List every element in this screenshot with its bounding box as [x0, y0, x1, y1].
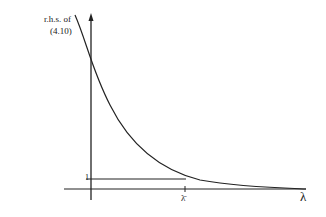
rhs-curve	[75, 15, 306, 189]
y-axis-label-equation: (4.10)	[50, 26, 72, 36]
y-axis-arrow-icon	[89, 13, 94, 21]
lambda-bar-label: λ̄	[181, 193, 185, 203]
diagram-canvas	[0, 0, 326, 217]
y-axis-label: r.h.s. of	[44, 14, 71, 24]
x-axis-label: λ	[300, 192, 306, 202]
level-one-label: 1	[85, 173, 89, 183]
